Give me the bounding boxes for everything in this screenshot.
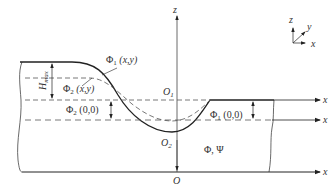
label-x-top: x: [322, 94, 328, 105]
triad-z-label: z: [288, 14, 293, 25]
triad-x-label: x: [310, 38, 316, 49]
tank-sloshing-diagram: z y x Φ1 (x,y) Φ2 (x,y) Φ2 (0,0) Φ1 (0,0…: [0, 0, 334, 189]
free-surface-phi1: [20, 62, 274, 132]
label-phi-psi: Φ, Ψ: [204, 144, 224, 155]
label-x-mid: x: [322, 114, 328, 125]
right-boundary: [269, 100, 274, 172]
label-phi2-xy: Φ2 (x,y): [63, 83, 95, 96]
surface-phi2: [25, 78, 210, 121]
label-o2: O2: [161, 137, 172, 150]
label-phi1-xy: Φ1 (x,y): [106, 54, 138, 67]
label-o: O: [173, 175, 180, 186]
left-boundary: [18, 62, 22, 172]
label-h-max: Hmax: [37, 70, 50, 91]
coordinate-triad: z y x: [288, 14, 316, 49]
label-phi2-00: Φ2 (0,0): [66, 104, 98, 117]
label-o1: O1: [163, 86, 174, 99]
label-z-axis: z: [172, 4, 177, 15]
phi1-leader: [102, 68, 117, 75]
label-x-bottom: x: [322, 166, 328, 177]
triad-y-label: y: [306, 21, 312, 32]
